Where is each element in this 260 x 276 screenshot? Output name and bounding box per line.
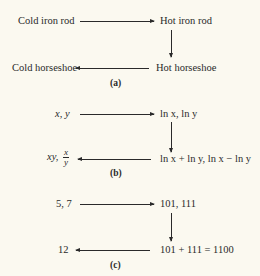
caption-b: (b) bbox=[110, 167, 122, 179]
node-binary-sum: 101 + 111 = 1100 bbox=[160, 244, 234, 256]
panel-c: 5, 7 101, 111 101 + 111 = 1100 12 (c) bbox=[0, 180, 260, 276]
arrow-cool bbox=[76, 68, 149, 69]
ln-text: ln x, ln y bbox=[160, 108, 197, 119]
node-cold-iron-rod: Cold iron rod bbox=[18, 15, 75, 27]
node-x-y: x, y bbox=[55, 108, 70, 120]
arrow-binary-add bbox=[171, 213, 172, 241]
arrow-heat bbox=[80, 21, 154, 22]
node-ln-sum-diff: ln x + ln y, ln x − ln y bbox=[160, 153, 251, 165]
node-5-7: 5, 7 bbox=[56, 198, 72, 210]
node-binary-101-111: 101, 111 bbox=[160, 198, 196, 210]
node-cold-horseshoe: Cold horseshoe bbox=[12, 62, 77, 74]
node-ln-x-ln-y: ln x, ln y bbox=[160, 108, 197, 120]
node-xy-x-over-y: xy, x y bbox=[47, 148, 69, 167]
node-12: 12 bbox=[58, 244, 69, 256]
fraction-denominator: y bbox=[63, 158, 69, 167]
caption-a: (a) bbox=[110, 77, 121, 89]
arrow-add-subtract bbox=[171, 122, 172, 152]
arrow-shape bbox=[171, 30, 172, 57]
xy-text: xy, bbox=[47, 151, 58, 162]
caption-c: (c) bbox=[110, 259, 121, 271]
arrow-antilog bbox=[78, 159, 151, 160]
arrow-log bbox=[80, 114, 154, 115]
arrow-to-decimal bbox=[76, 250, 150, 251]
node-hot-horseshoe: Hot horseshoe bbox=[156, 62, 216, 74]
panel-a: Cold iron rod Hot iron rod Hot horseshoe… bbox=[0, 0, 260, 90]
arrow-to-binary bbox=[80, 204, 154, 205]
node-hot-iron-rod: Hot iron rod bbox=[160, 15, 212, 27]
panel-b: x, y ln x, ln y ln x + ln y, ln x − ln y… bbox=[0, 90, 260, 180]
fraction-x-over-y: x y bbox=[63, 148, 69, 167]
